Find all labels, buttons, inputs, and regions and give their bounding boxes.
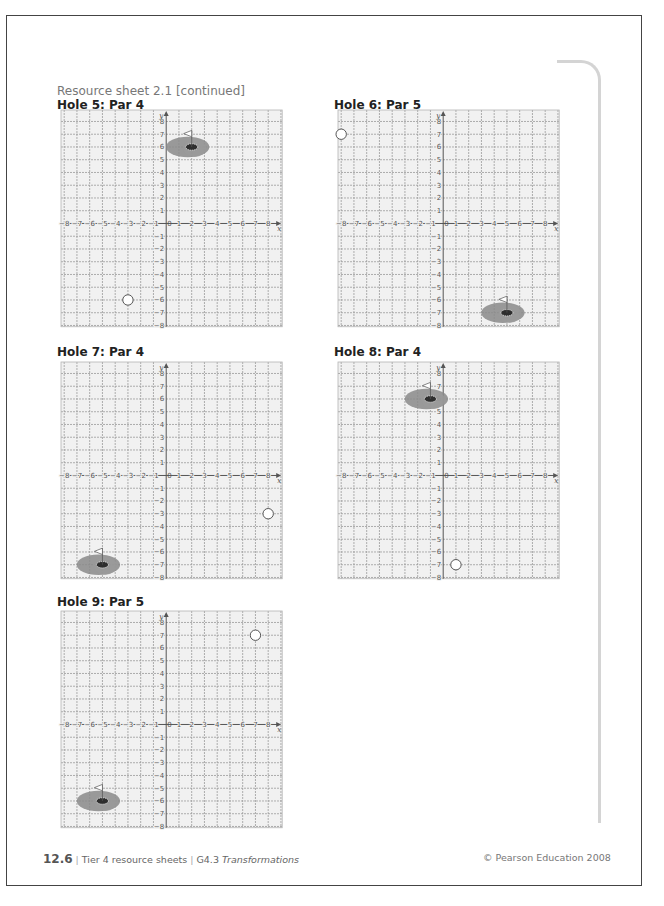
svg-text:−5: −5 xyxy=(154,536,164,544)
svg-text:−5: −5 xyxy=(97,472,107,480)
svg-text:−8: −8 xyxy=(431,322,441,330)
svg-text:−5: −5 xyxy=(374,220,384,228)
footer-left: 12.6|Tier 4 resource sheets|G4.3 Transfo… xyxy=(43,852,299,866)
footer-separator: | xyxy=(76,854,79,865)
svg-text:0: 0 xyxy=(167,721,171,729)
svg-text:−4: −4 xyxy=(110,721,121,729)
svg-text:−2: −2 xyxy=(413,220,423,228)
footer-topic-name: Transformations xyxy=(222,854,299,865)
svg-text:−7: −7 xyxy=(154,561,164,569)
svg-text:5: 5 xyxy=(228,472,232,480)
svg-text:6: 6 xyxy=(517,472,522,480)
coordinate-grid: −8−7−6−5−4−3−2−112345678−8−7−6−5−4−3−2−1… xyxy=(61,611,286,828)
svg-text:1: 1 xyxy=(437,207,441,215)
svg-text:1: 1 xyxy=(454,472,458,480)
svg-text:−7: −7 xyxy=(154,309,164,317)
svg-text:3: 3 xyxy=(160,182,164,190)
coordinate-grid: −8−7−6−5−4−3−2−112345678−8−7−6−5−4−3−2−1… xyxy=(61,110,286,327)
svg-text:5: 5 xyxy=(505,472,509,480)
svg-text:4: 4 xyxy=(160,670,165,678)
golf-ball xyxy=(250,630,260,640)
svg-text:6: 6 xyxy=(517,220,522,228)
svg-text:−6: −6 xyxy=(85,472,96,480)
svg-text:7: 7 xyxy=(437,383,441,391)
svg-text:3: 3 xyxy=(479,220,483,228)
svg-text:−5: −5 xyxy=(374,472,384,480)
svg-text:−6: −6 xyxy=(85,721,96,729)
svg-text:x: x xyxy=(277,726,281,734)
svg-text:8: 8 xyxy=(543,472,547,480)
svg-text:−1: −1 xyxy=(154,734,164,742)
svg-text:1: 1 xyxy=(437,459,441,467)
footer-separator: | xyxy=(190,854,193,865)
golf-ball xyxy=(263,509,273,519)
svg-text:−5: −5 xyxy=(97,220,107,228)
svg-text:−6: −6 xyxy=(154,548,165,556)
svg-text:2: 2 xyxy=(437,194,441,202)
svg-text:1: 1 xyxy=(177,220,181,228)
svg-text:3: 3 xyxy=(202,220,206,228)
svg-text:1: 1 xyxy=(160,207,164,215)
svg-text:−2: −2 xyxy=(154,497,164,505)
svg-text:4: 4 xyxy=(215,220,220,228)
svg-text:0: 0 xyxy=(167,472,171,480)
svg-text:8: 8 xyxy=(266,472,270,480)
svg-text:4: 4 xyxy=(215,721,220,729)
svg-text:3: 3 xyxy=(479,472,483,480)
svg-text:2: 2 xyxy=(189,472,193,480)
svg-text:2: 2 xyxy=(160,194,164,202)
svg-text:7: 7 xyxy=(437,131,441,139)
svg-text:0: 0 xyxy=(444,472,448,480)
hole-heading: Hole 9: Par 5 xyxy=(57,595,144,609)
svg-text:6: 6 xyxy=(240,472,245,480)
svg-text:−4: −4 xyxy=(110,472,121,480)
svg-text:−7: −7 xyxy=(349,220,359,228)
svg-text:2: 2 xyxy=(160,695,164,703)
sheet-title: Resource sheet 2.1 [continued] xyxy=(57,84,245,98)
svg-text:1: 1 xyxy=(160,708,164,716)
svg-text:−7: −7 xyxy=(72,472,82,480)
golf-ball xyxy=(336,129,346,139)
coordinate-grid: −8−7−6−5−4−3−2−112345678−8−7−6−5−4−3−2−1… xyxy=(338,110,563,327)
footer-topic-code: G4.3 xyxy=(196,854,218,865)
svg-text:6: 6 xyxy=(437,143,442,151)
svg-text:−7: −7 xyxy=(72,721,82,729)
copyright: © Pearson Education 2008 xyxy=(483,852,611,863)
svg-text:1: 1 xyxy=(177,721,181,729)
svg-text:−6: −6 xyxy=(362,220,373,228)
margin-decoration xyxy=(557,60,601,823)
svg-text:−2: −2 xyxy=(136,472,146,480)
svg-text:−5: −5 xyxy=(154,284,164,292)
svg-text:7: 7 xyxy=(530,220,534,228)
svg-text:1: 1 xyxy=(160,459,164,467)
svg-text:2: 2 xyxy=(160,446,164,454)
svg-text:0: 0 xyxy=(167,220,171,228)
svg-text:0: 0 xyxy=(444,220,448,228)
svg-text:6: 6 xyxy=(160,644,165,652)
svg-text:6: 6 xyxy=(240,721,245,729)
svg-text:−1: −1 xyxy=(431,485,441,493)
svg-text:−8: −8 xyxy=(154,322,164,330)
svg-text:7: 7 xyxy=(160,131,164,139)
svg-text:−3: −3 xyxy=(400,472,410,480)
svg-text:−5: −5 xyxy=(97,721,107,729)
svg-text:4: 4 xyxy=(160,169,165,177)
svg-text:8: 8 xyxy=(266,220,270,228)
svg-text:−6: −6 xyxy=(154,296,165,304)
svg-text:2: 2 xyxy=(466,220,470,228)
svg-text:−3: −3 xyxy=(400,220,410,228)
svg-text:−3: −3 xyxy=(154,510,164,518)
svg-text:x: x xyxy=(277,225,281,233)
svg-text:−5: −5 xyxy=(154,785,164,793)
svg-text:−4: −4 xyxy=(154,271,165,279)
svg-text:−3: −3 xyxy=(123,472,133,480)
svg-text:−8: −8 xyxy=(431,574,441,582)
svg-text:5: 5 xyxy=(437,408,441,416)
svg-text:−7: −7 xyxy=(431,309,441,317)
svg-text:−2: −2 xyxy=(431,245,441,253)
svg-text:−8: −8 xyxy=(154,574,164,582)
svg-text:−4: −4 xyxy=(431,271,442,279)
svg-text:2: 2 xyxy=(189,220,193,228)
svg-text:5: 5 xyxy=(160,156,164,164)
svg-text:6: 6 xyxy=(240,220,245,228)
